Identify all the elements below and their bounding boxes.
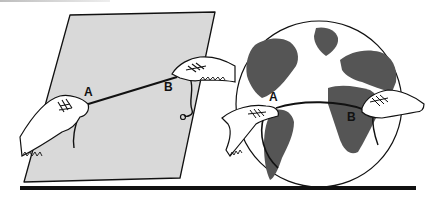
bottom-rule xyxy=(20,186,416,190)
label-a-flat: A xyxy=(84,85,93,99)
illustration: A B xyxy=(0,0,441,204)
flat-sheet xyxy=(24,12,215,182)
label-a-globe: A xyxy=(269,90,278,104)
illustration-canvas: A B xyxy=(0,0,441,204)
globe-panel: A B xyxy=(222,21,424,187)
top-edge-shadow xyxy=(0,0,110,2)
flat-sheet-panel: A B xyxy=(20,12,235,182)
label-b-globe: B xyxy=(347,110,356,124)
label-b-flat: B xyxy=(164,80,173,94)
